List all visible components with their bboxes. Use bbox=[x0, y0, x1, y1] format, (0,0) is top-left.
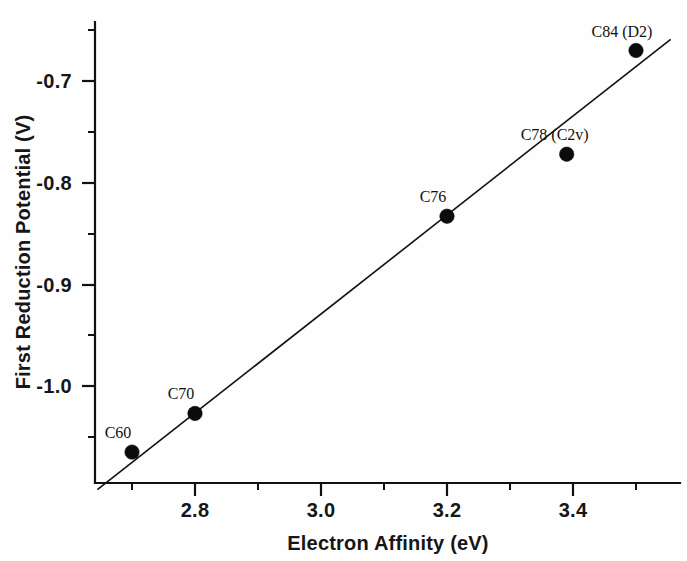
trend-line bbox=[97, 39, 670, 489]
data-point-label: C76 bbox=[420, 188, 447, 205]
x-axis-title: Electron Affinity (eV) bbox=[287, 532, 488, 554]
data-point-marker bbox=[629, 43, 643, 57]
data-point-marker bbox=[188, 406, 202, 420]
x-tick-label: 3.0 bbox=[307, 499, 336, 521]
data-point-label: C84 (D2) bbox=[592, 23, 653, 41]
data-point-marker bbox=[125, 445, 139, 459]
y-axis bbox=[82, 22, 95, 483]
data-point: C78 (C2v) bbox=[521, 126, 589, 161]
data-point-label: C78 (C2v) bbox=[521, 126, 589, 144]
chart-figure: -0.7 -0.8 -0.9 -1.0 2.8 3.0 3.2 3.4 Elec… bbox=[0, 0, 687, 561]
data-point: C60 bbox=[105, 424, 140, 459]
data-points-layer: C60C70C76C78 (C2v)C84 (D2) bbox=[105, 23, 653, 460]
data-point-label: C70 bbox=[168, 385, 195, 402]
y-tick-label: -0.9 bbox=[36, 274, 72, 296]
scatter-plot: -0.7 -0.8 -0.9 -1.0 2.8 3.0 3.2 3.4 Elec… bbox=[0, 0, 687, 561]
data-point: C76 bbox=[420, 188, 455, 223]
x-axis bbox=[95, 483, 680, 496]
data-point-marker bbox=[440, 209, 454, 223]
y-tick-label: -0.7 bbox=[36, 70, 72, 92]
y-tick-label: -0.8 bbox=[36, 172, 72, 194]
data-point-marker bbox=[560, 147, 574, 161]
x-tick-labels: 2.8 3.0 3.2 3.4 bbox=[181, 499, 588, 521]
y-tick-labels: -0.7 -0.8 -0.9 -1.0 bbox=[36, 70, 72, 397]
x-tick-label: 3.4 bbox=[559, 499, 588, 521]
x-tick-label: 2.8 bbox=[181, 499, 210, 521]
y-axis-title: First Reduction Potential (V) bbox=[12, 115, 34, 390]
data-point: C84 (D2) bbox=[592, 23, 653, 58]
data-point-label: C60 bbox=[105, 424, 132, 441]
data-point: C70 bbox=[168, 385, 203, 420]
x-tick-label: 3.2 bbox=[433, 499, 462, 521]
y-tick-label: -1.0 bbox=[36, 375, 72, 397]
